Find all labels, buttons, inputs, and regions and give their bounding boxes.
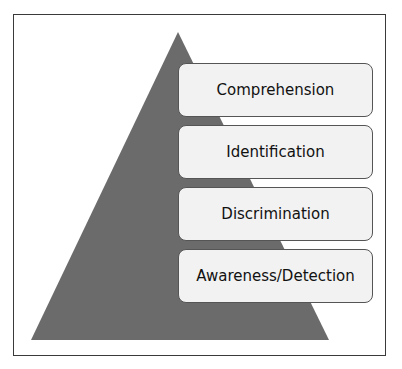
level-label: Identification xyxy=(226,143,324,161)
level-label: Comprehension xyxy=(217,81,335,99)
level-label: Awareness/Detection xyxy=(196,267,354,285)
level-identification: Identification xyxy=(178,125,373,179)
level-awareness-detection: Awareness/Detection xyxy=(178,249,373,303)
pyramid-triangle xyxy=(0,0,402,369)
level-comprehension: Comprehension xyxy=(178,63,373,117)
level-discrimination: Discrimination xyxy=(178,187,373,241)
level-label: Discrimination xyxy=(221,205,329,223)
